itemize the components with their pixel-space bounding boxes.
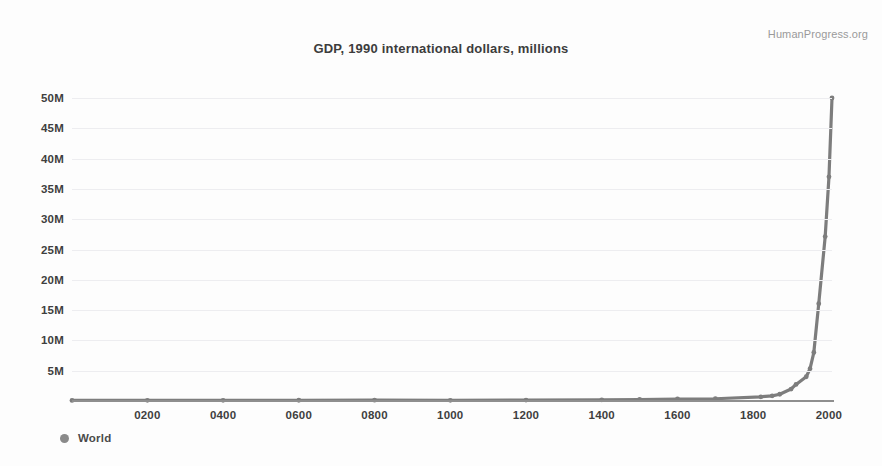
x-axis-tick-label: 1400 <box>589 409 615 421</box>
data-point-marker <box>816 301 821 306</box>
watermark-humanprogress: HumanProgress.org <box>768 28 868 40</box>
data-point-marker <box>777 392 782 397</box>
x-axis-tick-label: 1800 <box>740 409 766 421</box>
legend: World <box>60 432 111 444</box>
y-axis-tick-label: 40M <box>20 153 64 165</box>
gridline <box>72 280 832 281</box>
x-axis-tick-label: 1000 <box>437 409 463 421</box>
gridline <box>72 159 832 160</box>
x-axis-tick-label: 0600 <box>286 409 312 421</box>
circle-marker-icon <box>60 434 69 443</box>
y-axis-tick-label: 25M <box>20 244 64 256</box>
data-point-marker <box>823 234 828 239</box>
y-axis-labels: 5M10M15M20M25M30M35M40M45M50M <box>18 0 64 466</box>
x-axis-labels: 0200040006000800100012001400160018002000 <box>0 409 882 429</box>
y-axis-tick-label: 30M <box>20 213 64 225</box>
gridline <box>72 371 832 372</box>
gridline <box>72 340 832 341</box>
data-point-marker <box>794 382 799 387</box>
data-point-marker <box>789 387 794 392</box>
data-point-marker <box>827 174 832 179</box>
x-axis-tick-label: 2000 <box>816 409 842 421</box>
y-axis-tick-label: 35M <box>20 183 64 195</box>
y-axis-tick-label: 10M <box>20 334 64 346</box>
gridline <box>72 250 832 251</box>
chart-title: GDP, 1990 international dollars, million… <box>0 41 882 56</box>
data-point-marker <box>758 394 763 399</box>
x-axis-tick-label: 0400 <box>210 409 236 421</box>
gridline <box>72 189 832 190</box>
y-axis-tick-label: 15M <box>20 304 64 316</box>
data-point-marker <box>811 350 816 355</box>
gridline <box>72 310 832 311</box>
x-axis-tick-label: 0200 <box>134 409 160 421</box>
x-axis-tick-label: 1200 <box>513 409 539 421</box>
gridline <box>72 128 832 129</box>
gridline <box>72 98 832 99</box>
chart-container: HumanProgress.org GDP, 1990 internationa… <box>0 0 882 466</box>
gridline <box>72 219 832 220</box>
y-axis-tick-label: 50M <box>20 92 64 104</box>
plot-area <box>72 98 832 401</box>
y-axis-tick-label: 5M <box>20 365 64 377</box>
legend-item-world[interactable]: World <box>78 432 111 444</box>
data-point-marker <box>770 393 775 398</box>
x-axis-line <box>72 400 834 402</box>
x-axis-tick-label: 1600 <box>664 409 690 421</box>
y-axis-tick-label: 45M <box>20 122 64 134</box>
y-axis-tick-label: 20M <box>20 274 64 286</box>
data-point-marker <box>804 374 809 379</box>
x-axis-tick-label: 0800 <box>361 409 387 421</box>
